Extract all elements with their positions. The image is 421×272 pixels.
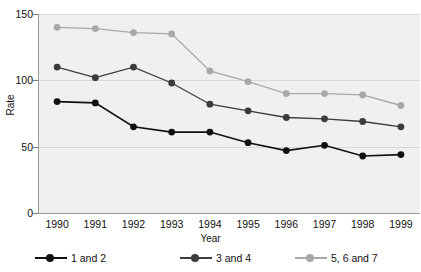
x-axis-tick-label: 1995 <box>228 219 268 230</box>
legend-dot-icon <box>46 254 54 262</box>
gridline <box>38 80 420 81</box>
y-axis-tick <box>33 213 38 214</box>
legend-marker-icon <box>35 252 67 264</box>
x-axis-title: Year <box>0 234 421 244</box>
x-axis-tick-label: 1994 <box>190 219 230 230</box>
y-axis-title: Rate <box>6 75 16 135</box>
gridline <box>38 147 420 148</box>
x-axis-tick-label: 1993 <box>152 219 192 230</box>
gridline <box>38 14 420 15</box>
y-axis-tick-label: 0 <box>3 208 33 219</box>
x-axis-tick-label: 1992 <box>114 219 154 230</box>
plot-area <box>38 14 420 213</box>
y-axis-tick-labels: 050100150 <box>0 0 33 272</box>
y-axis-tick <box>33 80 38 81</box>
chart-legend: 1 and 23 and 45, 6 and 7 <box>0 250 421 268</box>
y-axis-tick <box>33 147 38 148</box>
y-axis-line <box>38 14 39 213</box>
line-chart: 050100150 199019911992199319941995199619… <box>0 0 421 272</box>
legend-label: 5, 6 and 7 <box>331 253 378 264</box>
legend-dot-icon <box>306 254 314 262</box>
x-axis-tick-label: 1997 <box>305 219 345 230</box>
y-axis-tick <box>33 14 38 15</box>
legend-item[interactable]: 1 and 2 <box>35 250 106 266</box>
legend-item[interactable]: 5, 6 and 7 <box>295 250 378 266</box>
x-axis-tick-label: 1999 <box>381 219 421 230</box>
x-axis-tick-label: 1990 <box>37 219 77 230</box>
legend-label: 3 and 4 <box>216 253 251 264</box>
x-axis-line <box>38 213 420 214</box>
legend-dot-icon <box>191 254 199 262</box>
x-axis-tick-label: 1998 <box>343 219 383 230</box>
y-axis-tick-label: 50 <box>3 142 33 153</box>
legend-label: 1 and 2 <box>71 253 106 264</box>
legend-item[interactable]: 3 and 4 <box>180 250 251 266</box>
legend-marker-icon <box>180 252 212 264</box>
legend-marker-icon <box>295 252 327 264</box>
y-axis-tick-label: 150 <box>3 9 33 20</box>
x-axis-tick-label: 1996 <box>266 219 306 230</box>
x-axis-tick-label: 1991 <box>75 219 115 230</box>
